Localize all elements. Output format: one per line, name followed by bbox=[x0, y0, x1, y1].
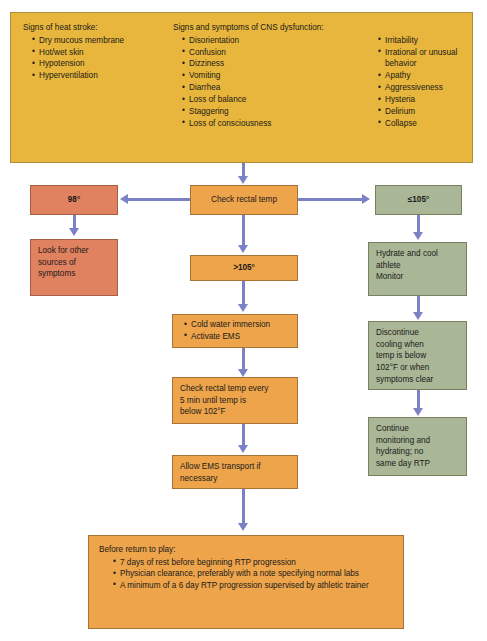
list-item: Confusion bbox=[182, 47, 369, 59]
list-item: Physician clearance, preferably with a n… bbox=[113, 568, 393, 580]
list-item: Aggressiveness bbox=[378, 82, 462, 94]
info-column-2-list: Disorientation Confusion Dizziness Vomit… bbox=[173, 35, 369, 130]
node-hydrate-line-3: Monitor bbox=[376, 271, 459, 283]
node-continue-line-3: hydrating; no bbox=[376, 446, 459, 458]
node-recheck-line-1: Check rectal temp every bbox=[180, 383, 290, 395]
node-temp-over-105-label: >105° bbox=[233, 262, 255, 274]
node-temp-le-105-label: ≤105° bbox=[408, 194, 429, 206]
node-check-rectal-temp: Check rectal temp bbox=[190, 185, 298, 215]
arrow-left-icon bbox=[120, 194, 128, 204]
list-item: Dizziness bbox=[182, 58, 369, 70]
node-ems-line-1: Allow EMS transport if bbox=[180, 461, 290, 473]
list-item: Staggering bbox=[182, 106, 369, 118]
list-item: 7 days of rest before beginning RTP prog… bbox=[113, 557, 393, 569]
node-temp-98-label: 98° bbox=[68, 194, 80, 206]
connector-line-check-to-105 bbox=[298, 198, 362, 201]
node-hydrate-line-2: athlete bbox=[376, 260, 459, 272]
node-discontinue-line-5: symptoms clear bbox=[376, 374, 459, 386]
list-item: Hyperventilation bbox=[32, 70, 173, 82]
arrow-down-icon bbox=[413, 408, 423, 416]
info-column-cns-symptoms-continued: Irritability Irrational or unusual behav… bbox=[369, 22, 462, 156]
info-column-2-heading: Signs and symptoms of CNS dysfunction: bbox=[173, 22, 369, 34]
node-discontinue-line-2: cooling when bbox=[376, 339, 459, 351]
list-item: Loss of consciousness bbox=[182, 118, 369, 130]
connector-line-discontinue-to-continue bbox=[417, 390, 420, 409]
connector-line-info-to-check bbox=[242, 163, 245, 177]
connector-line-ems-to-rtp bbox=[242, 489, 245, 524]
node-continue-monitoring: Continue monitoring and hydrating; no sa… bbox=[368, 417, 467, 476]
connector-line-105-to-hydrate bbox=[417, 215, 420, 233]
node-look-line-3: symptoms bbox=[38, 268, 110, 280]
node-recheck-line-2: 5 min until temp is bbox=[180, 395, 290, 407]
arrow-down-icon bbox=[238, 176, 248, 184]
list-item: Hot/wet skin bbox=[32, 47, 173, 59]
list-item: Cold water immersion bbox=[184, 319, 290, 331]
list-item: Vomiting bbox=[182, 70, 369, 82]
node-cold-water-list: Cold water immersion Activate EMS bbox=[180, 319, 290, 342]
arrow-down-icon bbox=[238, 245, 248, 253]
connector-line-98-to-look bbox=[73, 214, 76, 229]
node-hydrate-line-1: Hydrate and cool bbox=[376, 248, 459, 260]
list-item: Dry mucous membrane bbox=[32, 35, 173, 47]
connector-line-check-to-over105 bbox=[242, 215, 245, 246]
node-recheck-line-3: below 102°F bbox=[180, 406, 290, 418]
node-continue-line-1: Continue bbox=[376, 423, 459, 435]
list-item: Loss of balance bbox=[182, 94, 369, 106]
list-item: Disorientation bbox=[182, 35, 369, 47]
arrow-down-icon bbox=[238, 304, 248, 312]
node-ems-line-2: necessary bbox=[180, 473, 290, 485]
node-hydrate-and-cool: Hydrate and cool athlete Monitor bbox=[368, 242, 467, 296]
list-item: A minimum of a 6 day RTP progression sup… bbox=[113, 580, 393, 592]
node-look-for-other-sources: Look for other sources of symptoms bbox=[30, 239, 118, 296]
connector-line-check-to-98 bbox=[128, 198, 190, 201]
list-item: Hypotension bbox=[32, 58, 173, 70]
node-look-line-2: sources of bbox=[38, 257, 110, 269]
list-item: Diarrhea bbox=[182, 82, 369, 94]
list-item: Collapse bbox=[378, 118, 462, 130]
arrow-down-icon bbox=[238, 523, 248, 531]
info-column-1-heading: Signs of heat stroke: bbox=[23, 22, 173, 34]
list-item: Hysteria bbox=[378, 94, 462, 106]
arrow-down-icon bbox=[238, 369, 248, 377]
node-check-rectal-temp-label: Check rectal temp bbox=[211, 194, 277, 206]
node-discontinue-cooling: Discontinue cooling when temp is below 1… bbox=[368, 321, 467, 390]
list-item: Delirium bbox=[378, 106, 462, 118]
arrow-down-icon bbox=[413, 312, 423, 320]
heat-stroke-info-panel: Signs of heat stroke: Dry mucous membran… bbox=[10, 12, 473, 163]
node-continue-line-2: monitoring and bbox=[376, 435, 459, 447]
info-column-cns-symptoms: Signs and symptoms of CNS dysfunction: D… bbox=[173, 22, 369, 156]
node-temp-over-105: >105° bbox=[190, 255, 298, 281]
node-discontinue-line-1: Discontinue bbox=[376, 327, 459, 339]
node-look-line-1: Look for other bbox=[38, 245, 110, 257]
list-item: Irritability bbox=[378, 35, 462, 47]
node-continue-line-4: same day RTP bbox=[376, 458, 459, 470]
arrow-down-icon bbox=[69, 228, 79, 236]
node-rtp-heading: Before return to play: bbox=[99, 544, 393, 556]
info-column-3-spacer bbox=[369, 22, 462, 34]
connector-line-cold-to-recheck bbox=[242, 348, 245, 370]
connector-line-recheck-to-ems bbox=[242, 424, 245, 446]
node-cold-water-immersion: Cold water immersion Activate EMS bbox=[172, 314, 298, 348]
info-column-1-list: Dry mucous membrane Hot/wet skin Hypoten… bbox=[23, 35, 173, 83]
node-temp-le-105: ≤105° bbox=[375, 185, 462, 215]
connector-line-over105-to-cold bbox=[242, 281, 245, 305]
arrow-down-icon bbox=[413, 232, 423, 240]
node-before-return-to-play: Before return to play: 7 days of rest be… bbox=[88, 535, 404, 629]
list-item: Activate EMS bbox=[184, 331, 290, 343]
list-item: Irrational or unusual behavior bbox=[378, 47, 462, 71]
node-discontinue-line-3: temp is below bbox=[376, 350, 459, 362]
list-item: Apathy bbox=[378, 70, 462, 82]
info-column-heat-stroke-signs: Signs of heat stroke: Dry mucous membran… bbox=[23, 22, 173, 156]
node-allow-ems-transport: Allow EMS transport if necessary bbox=[172, 455, 298, 489]
node-recheck-rectal-temp: Check rectal temp every 5 min until temp… bbox=[172, 377, 298, 424]
node-temp-98: 98° bbox=[30, 185, 118, 215]
node-rtp-list: 7 days of rest before beginning RTP prog… bbox=[99, 557, 393, 592]
connector-line-hydrate-to-discontinue bbox=[417, 296, 420, 313]
arrow-down-icon bbox=[238, 445, 248, 453]
node-discontinue-line-4: 102°F or when bbox=[376, 362, 459, 374]
info-column-3-list: Irritability Irrational or unusual behav… bbox=[369, 35, 462, 130]
arrow-right-icon bbox=[362, 194, 370, 204]
